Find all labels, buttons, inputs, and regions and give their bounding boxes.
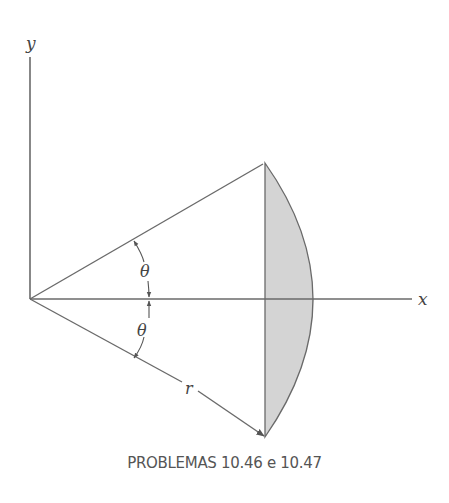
y-axis-label: y xyxy=(25,33,36,53)
figure-caption: PROBLEMAS 10.46 e 10.47 xyxy=(0,454,449,472)
theta-upper-label: θ xyxy=(140,262,150,281)
shaded-segment xyxy=(265,163,313,437)
diagram-canvas: y x θ θ r xyxy=(0,0,449,503)
angle-arc-lower xyxy=(134,337,144,358)
lower-radius-line xyxy=(30,299,182,382)
angle-arc-upper xyxy=(134,241,144,262)
radius-label: r xyxy=(185,379,194,398)
theta-lower-label: θ xyxy=(137,321,147,340)
angle-arc-upper-lower-part xyxy=(148,281,149,297)
x-axis-label: x xyxy=(418,289,428,309)
lower-radius-line-arrow xyxy=(198,391,264,436)
